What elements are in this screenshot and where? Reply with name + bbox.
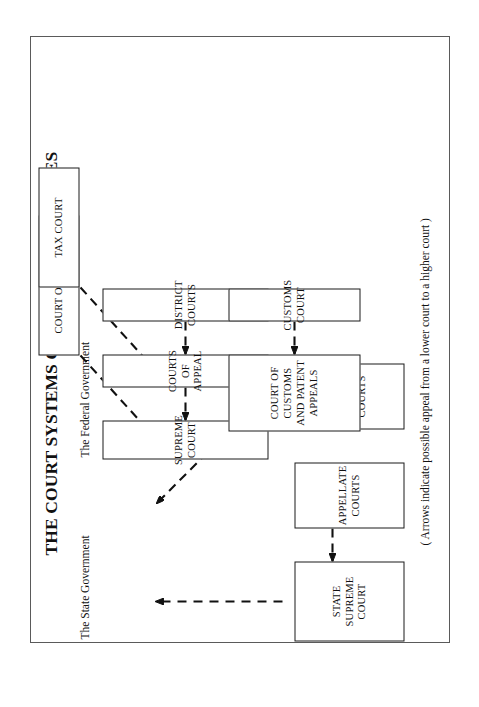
box-supreme-court-label: SUPREME COURT [172,415,198,465]
box-courts-of-appeal-label: COURTS OF APPEAL [166,350,204,392]
box-state-supreme-court[interactable]: STATE SUPREME COURT [294,562,404,642]
box-appellate-courts[interactable]: APPELLATE COURTS [294,463,404,529]
diagram-caption: ( Arrows indicate possible appeal from a… [418,218,430,545]
box-court-of-customs-and-patent-appeals[interactable]: COURT OF CUSTOMS AND PATENT APPEALS [228,355,360,432]
box-tax-court-label: TAX COURT [52,197,65,257]
box-court-of-customs-and-patent-appeals-label: COURT OF CUSTOMS AND PATENT APPEALS [268,359,319,428]
federal-government-label: The Federal Government [78,342,90,458]
box-district-courts-label: DISTRICT COURTS [172,281,198,330]
box-tax-court[interactable]: TAX COURT [38,168,79,288]
state-government-label: The State Government [78,535,90,639]
diagram-canvas: THE COURT SYSTEMS OF THE UNITED STATES T… [32,54,447,654]
box-customs-court-label: CUSTOMS COURT [281,280,307,331]
scanned-page: THE COURT SYSTEMS OF THE UNITED STATES T… [0,0,479,707]
box-appellate-courts-label: APPELLATE COURTS [336,466,362,526]
box-state-supreme-court-label: STATE SUPREME COURT [330,566,368,638]
box-customs-court[interactable]: CUSTOMS COURT [228,289,360,322]
